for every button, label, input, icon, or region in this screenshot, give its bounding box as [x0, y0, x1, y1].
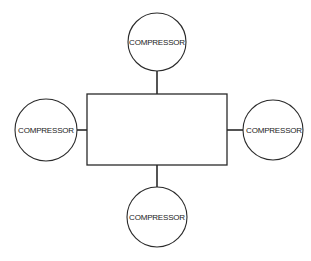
compressor-label: COMPRESSOR	[246, 126, 302, 135]
compressor-label: COMPRESSOR	[129, 38, 185, 47]
compressor-diagram: COMPRESSOR COMPRESSOR COMPRESSOR COMPRES…	[0, 0, 311, 261]
compressor-node-top: COMPRESSOR	[128, 13, 186, 71]
compressor-node-bottom: COMPRESSOR	[127, 187, 187, 247]
compressor-node-right: COMPRESSOR	[243, 100, 303, 160]
compressor-label: COMPRESSOR	[129, 213, 185, 222]
compressor-label: COMPRESSOR	[18, 126, 74, 135]
compressor-node-left: COMPRESSOR	[15, 99, 77, 161]
central-box	[87, 94, 227, 165]
